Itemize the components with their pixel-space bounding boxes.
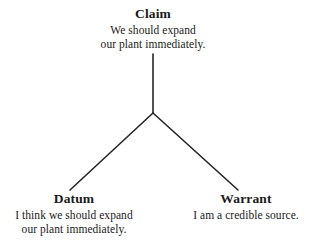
- node-warrant: Warrant I am a credible source.: [176, 191, 316, 222]
- node-claim-heading: Claim: [79, 6, 227, 22]
- node-datum-body: I think we should expand our plant immed…: [2, 208, 146, 236]
- toulmin-argument-diagram: Claim We should expand our plant immedia…: [0, 0, 318, 240]
- node-datum-body-line-1: I think we should expand: [2, 208, 146, 222]
- node-datum: Datum I think we should expand our plant…: [2, 191, 146, 237]
- connector-junction-to-datum: [70, 113, 153, 190]
- node-datum-heading: Datum: [2, 191, 146, 207]
- node-claim-body: We should expand our plant immediately.: [79, 23, 227, 51]
- node-claim-body-line-2: our plant immediately.: [79, 37, 227, 51]
- node-warrant-body: I am a credible source.: [176, 208, 316, 222]
- node-warrant-heading: Warrant: [176, 191, 316, 207]
- connector-junction-to-warrant: [153, 113, 238, 190]
- node-claim: Claim We should expand our plant immedia…: [79, 6, 227, 52]
- node-warrant-body-line-1: I am a credible source.: [176, 208, 316, 222]
- node-datum-body-line-2: our plant immediately.: [2, 222, 146, 236]
- node-claim-body-line-1: We should expand: [79, 23, 227, 37]
